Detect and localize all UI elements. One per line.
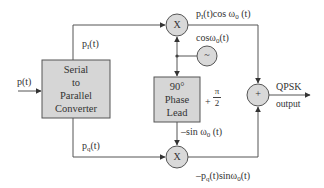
in-phase-label: pI(t): [82, 38, 99, 53]
phase-line-1: 90°: [154, 80, 200, 93]
s2p-line-4: Converter: [42, 102, 110, 115]
output-label-qpsk: QPSK: [276, 81, 302, 92]
pi-numerator: π: [213, 87, 221, 96]
pi-over-two: π 2: [213, 87, 221, 108]
bottom-product-label: –pq(t)sinω0(t): [196, 170, 250, 185]
neg-sin-label: –sin ω0 (t): [181, 126, 222, 141]
oscillator-label: cosω0(t): [196, 32, 229, 47]
serial-to-parallel-text: Serial to Parallel Converter: [42, 63, 110, 115]
top-multiplier-symbol: X: [170, 19, 184, 30]
phase-lead-text: 90° Phase Lead: [154, 80, 200, 119]
top-product-label: pI(t)cos ω0 (t): [196, 8, 251, 23]
quadrature-label: pq(t): [82, 140, 100, 155]
s2p-line-2: to: [42, 76, 110, 89]
output-label-output: output: [276, 99, 300, 110]
s2p-line-3: Parallel: [42, 89, 110, 102]
bottom-multiplier-symbol: X: [170, 151, 184, 162]
pi-denominator: 2: [213, 99, 221, 108]
oscillator-symbol: ~: [200, 49, 214, 60]
phase-sign: +: [205, 96, 211, 107]
s2p-line-1: Serial: [42, 63, 110, 76]
phase-line-2: Phase: [154, 93, 200, 106]
input-label: p(t): [17, 76, 31, 87]
phase-line-3: Lead: [154, 106, 200, 119]
summer-symbol: +: [251, 88, 265, 99]
